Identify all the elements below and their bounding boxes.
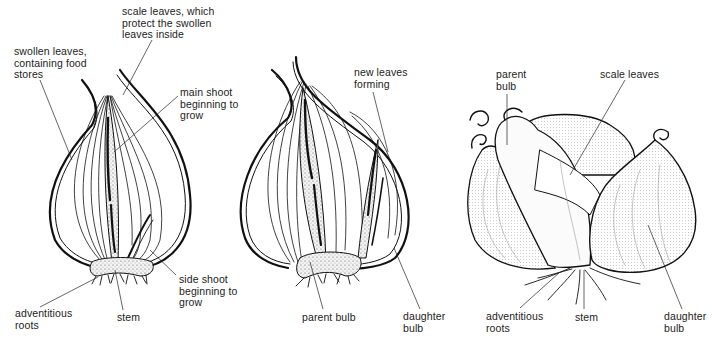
label-main-shoot: main shoot beginning to grow: [180, 87, 238, 122]
label-parent-bulb-3: parent bulb: [496, 69, 526, 92]
onion-daughter-drawing: [241, 57, 409, 287]
onion-bulb-diagram: swollen leaves, containing food stores s…: [0, 0, 712, 341]
label-scale-leaves-3: scale leaves: [600, 69, 659, 81]
label-side-shoot: side shoot beginning to grow: [179, 274, 237, 309]
label-parent-bulb-2: parent bulb: [302, 312, 356, 324]
label-daughter-bulb-2: daughter bulb: [403, 311, 445, 334]
label-stem-3: stem: [575, 312, 598, 324]
label-stem-1: stem: [117, 312, 140, 324]
label-adventitious-roots-3: adventitious roots: [486, 311, 543, 334]
label-scale-leaves-protect: scale leaves, which protect the swollen …: [122, 6, 214, 41]
onion-section-drawing: [50, 70, 191, 285]
label-new-leaves-forming: new leaves forming: [354, 67, 408, 90]
label-adventitious-roots-1: adventitious roots: [15, 308, 72, 331]
label-daughter-bulb-3: daughter bulb: [664, 311, 706, 334]
diagram-artwork: [0, 0, 712, 341]
shallot-cluster-drawing: [468, 108, 696, 304]
label-swollen-leaves: swollen leaves, containing food stores: [14, 46, 87, 81]
leader-lines-panel-2: [310, 92, 420, 309]
